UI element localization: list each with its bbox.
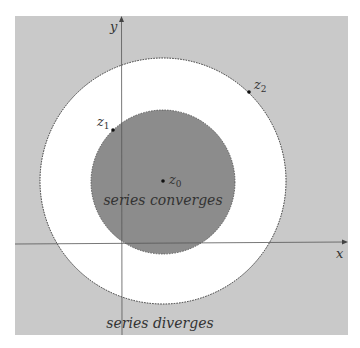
point-z1	[111, 128, 115, 132]
convergence-diagram: x y z0 z1 z2 series converges series div…	[0, 0, 360, 348]
point-z0	[161, 179, 165, 183]
diverges-label: series diverges	[106, 315, 213, 331]
y-axis-label: y	[109, 19, 118, 34]
y-axis	[122, 20, 123, 335]
point-z2	[247, 90, 251, 94]
x-axis-label: x	[336, 246, 344, 261]
converges-label: series converges	[103, 192, 222, 208]
